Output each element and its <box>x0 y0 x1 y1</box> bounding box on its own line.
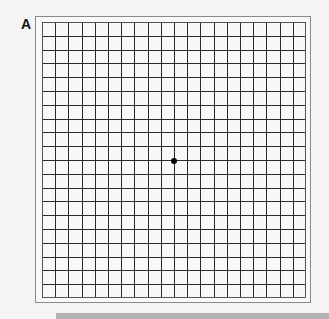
bottom-bar <box>56 313 329 319</box>
panel-label: A <box>21 17 31 31</box>
amsler-grid <box>42 22 306 298</box>
fixation-dot-icon <box>171 158 177 164</box>
